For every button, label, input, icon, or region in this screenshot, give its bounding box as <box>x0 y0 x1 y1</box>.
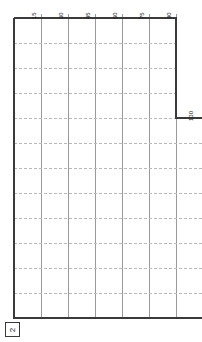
plan-outline <box>0 0 202 342</box>
grid-line-horizontal <box>14 318 202 319</box>
grid-line-horizontal <box>14 293 202 294</box>
drawing-canvas: 15 30 45 60 75 90 100 2 <box>0 0 202 342</box>
grid-line-horizontal <box>14 143 202 144</box>
tick-label-top-90: 90 <box>166 12 172 19</box>
grid-line-vertical <box>41 14 42 318</box>
grid-line-horizontal <box>14 43 177 44</box>
grid-line-vertical <box>122 14 123 318</box>
tick-label-top-75: 75 <box>139 12 145 19</box>
tick-label-top-45: 45 <box>85 12 91 19</box>
grid-line-vertical <box>149 14 150 318</box>
grid-line-horizontal <box>14 118 177 119</box>
grid-line-horizontal <box>14 93 177 94</box>
grid-line-horizontal <box>14 218 202 219</box>
grid-line-vertical <box>95 14 96 318</box>
tick-label-right-100: 100 <box>188 111 194 121</box>
tick-label-top-30: 30 <box>58 12 64 19</box>
grid-line-vertical <box>176 14 177 318</box>
tick-label-top-15: 15 <box>31 12 37 19</box>
grid-line-vertical <box>68 14 69 318</box>
sheet-marker: 2 <box>5 322 20 337</box>
grid-line-horizontal <box>14 168 202 169</box>
grid-line-horizontal <box>14 193 202 194</box>
grid-line-horizontal <box>14 268 202 269</box>
sheet-marker-label: 2 <box>9 327 17 331</box>
grid-line-horizontal <box>14 243 202 244</box>
grid-line-horizontal <box>14 68 177 69</box>
tick-label-top-60: 60 <box>112 12 118 19</box>
